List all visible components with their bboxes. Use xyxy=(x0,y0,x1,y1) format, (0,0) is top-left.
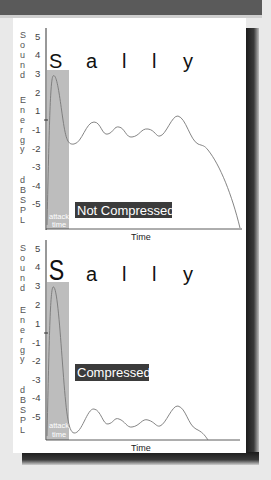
svg-text:l: l xyxy=(152,50,156,72)
svg-text:n: n xyxy=(20,60,25,70)
svg-text:-2: -2 xyxy=(32,143,40,154)
svg-text:-4: -4 xyxy=(32,180,40,191)
svg-text:S: S xyxy=(20,195,26,205)
svg-text:Time: Time xyxy=(131,443,151,453)
svg-text:2: 2 xyxy=(35,87,40,98)
svg-text:y: y xyxy=(183,263,193,285)
envelope-curve xyxy=(47,287,208,440)
svg-text:d: d xyxy=(20,283,25,293)
svg-text:S: S xyxy=(49,253,64,286)
svg-text:d: d xyxy=(20,175,25,185)
panel-not-compressed: S o u n d E n e r g y d B S P L 5 4 3 2 … xyxy=(20,28,242,242)
svg-text:5: 5 xyxy=(35,243,40,254)
svg-text:5: 5 xyxy=(35,31,40,42)
svg-text:Not Compressed: Not Compressed xyxy=(77,203,175,218)
svg-text:attack: attack xyxy=(49,421,69,430)
svg-text:3: 3 xyxy=(35,68,40,79)
svg-text:B: B xyxy=(20,395,26,405)
svg-text:-5: -5 xyxy=(32,198,40,209)
svg-text:P: P xyxy=(20,205,26,215)
svg-text:time: time xyxy=(52,220,66,229)
svg-text:y: y xyxy=(183,50,193,72)
svg-text:P: P xyxy=(20,415,26,425)
svg-text:d: d xyxy=(20,70,25,80)
svg-text:d: d xyxy=(20,385,25,395)
svg-text:S: S xyxy=(20,243,26,253)
panel-compressed: S o u n d E n e r g y d B S P L 5 4 3 2 … xyxy=(20,240,240,453)
svg-text:L: L xyxy=(20,425,25,435)
svg-text:n: n xyxy=(20,273,25,283)
word-sally: S a l l y xyxy=(49,253,193,286)
svg-text:u: u xyxy=(20,50,25,60)
svg-text:4: 4 xyxy=(35,261,40,272)
y-tick-labels: 5 4 3 2 1 -1 -2 -3 -4 -5 xyxy=(32,31,40,209)
svg-text:o: o xyxy=(20,40,25,50)
svg-text:1: 1 xyxy=(35,105,40,116)
svg-text:-3: -3 xyxy=(32,374,40,385)
svg-text:y: y xyxy=(20,354,25,364)
word-sally: S a l l y xyxy=(49,50,193,72)
svg-text:e: e xyxy=(20,115,25,125)
svg-text:S: S xyxy=(49,50,62,72)
attack-time-band xyxy=(47,70,69,229)
svg-text:2: 2 xyxy=(35,299,40,310)
svg-text:E: E xyxy=(20,95,26,105)
svg-text:o: o xyxy=(20,253,25,263)
svg-text:B: B xyxy=(20,185,26,195)
svg-text:n: n xyxy=(20,105,25,115)
svg-text:-1: -1 xyxy=(32,124,40,135)
svg-text:L: L xyxy=(20,215,25,225)
svg-text:-5: -5 xyxy=(32,411,40,422)
svg-text:a: a xyxy=(86,263,98,285)
y-axis-label: S o u n d E n e r g y d B S P L xyxy=(20,30,26,225)
svg-text:r: r xyxy=(20,125,23,135)
y-tick-labels: 5 4 3 2 1 -1 -2 -3 -4 -5 xyxy=(32,243,40,422)
svg-text:-4: -4 xyxy=(32,392,40,403)
svg-text:y: y xyxy=(20,144,25,154)
svg-text:l: l xyxy=(122,263,126,285)
svg-text:S: S xyxy=(20,405,26,415)
svg-text:l: l xyxy=(152,263,156,285)
svg-text:Compressed: Compressed xyxy=(77,365,151,380)
svg-text:u: u xyxy=(20,263,25,273)
svg-text:-2: -2 xyxy=(32,355,40,366)
svg-text:4: 4 xyxy=(35,49,40,60)
svg-text:-1: -1 xyxy=(32,337,40,348)
y-axis-label: S o u n d E n e r g y d B S P L xyxy=(20,243,26,435)
svg-text:1: 1 xyxy=(35,318,40,329)
svg-text:e: e xyxy=(20,325,25,335)
svg-text:-3: -3 xyxy=(32,161,40,172)
svg-text:E: E xyxy=(20,305,26,315)
svg-text:n: n xyxy=(20,315,25,325)
compression-diagram: S o u n d E n e r g y d B S P L 5 4 3 2 … xyxy=(0,0,271,480)
svg-text:r: r xyxy=(20,335,23,345)
svg-text:time: time xyxy=(52,430,66,439)
svg-text:Time: Time xyxy=(131,232,151,242)
svg-text:l: l xyxy=(122,50,126,72)
svg-text:a: a xyxy=(86,50,98,72)
svg-text:3: 3 xyxy=(35,280,40,291)
svg-text:S: S xyxy=(20,30,26,40)
